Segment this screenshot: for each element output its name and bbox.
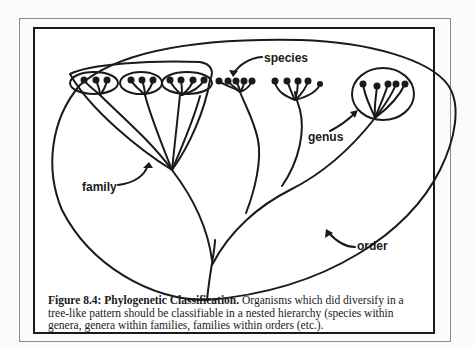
figure-caption: Figure 8.4: Phylogenetic Classification.… — [48, 294, 428, 332]
caption-title: Figure 8.4: Phylogenetic Classification. — [48, 294, 239, 306]
species-label: species — [264, 52, 308, 64]
caption-line-2: tree-like pattern should be classifiable… — [48, 307, 428, 320]
branch-genus-1 — [100, 95, 172, 170]
branch-mid-2 — [282, 92, 302, 186]
caption-line-1: Figure 8.4: Phylogenetic Classification.… — [48, 294, 428, 307]
genus-label: genus — [308, 131, 343, 143]
branch-family — [172, 170, 212, 260]
branch-right — [212, 118, 375, 265]
order-label: order — [357, 240, 388, 252]
caption-line-3: genera, genera within families, families… — [48, 319, 428, 332]
branch-mid-1 — [240, 92, 259, 213]
branch-genus-2 — [145, 95, 172, 170]
caption-text-1: Organisms which did diversify in a — [239, 294, 404, 306]
family-label: family — [82, 181, 117, 193]
order-arrow — [328, 232, 355, 247]
genus-arrow — [330, 113, 355, 131]
